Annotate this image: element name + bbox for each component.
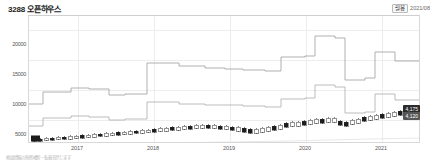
chart-header: 3288 오픈하우스 월봉 2021/08 <box>0 0 433 16</box>
plot-inner <box>29 16 419 142</box>
y-axis-labels: 20000 15000 10000 5000 <box>0 15 27 143</box>
price-candles <box>32 107 419 142</box>
plot-area[interactable]: 4,175 4,120 <box>28 15 420 143</box>
grid-horizontal <box>29 31 419 121</box>
x-axis-labels: 2017 2018 2019 2020 2021 <box>28 144 420 156</box>
x-tick-2017: 2017 <box>71 145 83 151</box>
upper-step-line <box>29 36 419 104</box>
asof-label: 2021/08 <box>410 5 430 12</box>
grid-vertical <box>79 16 383 142</box>
volume-baseline <box>29 138 419 142</box>
period-selector[interactable]: 월봉 <box>392 4 408 13</box>
x-tick-2020: 2020 <box>299 145 311 151</box>
stock-chart-widget: 3288 오픈하우스 월봉 2021/08 20000 15000 10000 … <box>0 0 433 160</box>
x-tick-2019: 2019 <box>223 145 235 151</box>
page-title: 3288 오픈하우스 <box>8 3 61 14</box>
header-controls: 월봉 2021/08 <box>392 4 430 13</box>
y-tick-20000: 20000 <box>12 41 26 47</box>
copyright-footnote: 株価情報の無断複製・転載を禁じます <box>6 154 71 160</box>
y-tick-15000: 15000 <box>12 71 26 77</box>
y-tick-5000: 5000 <box>15 131 26 137</box>
x-tick-2018: 2018 <box>147 145 159 151</box>
start-marker <box>31 136 40 142</box>
chart-svg <box>29 16 419 142</box>
y-tick-10000: 10000 <box>12 101 26 107</box>
x-tick-2021: 2021 <box>375 145 387 151</box>
candle-wicks <box>34 107 418 142</box>
last-price-secondary-badge[interactable]: 4,120 <box>403 112 420 120</box>
lower-step-line <box>29 85 419 126</box>
